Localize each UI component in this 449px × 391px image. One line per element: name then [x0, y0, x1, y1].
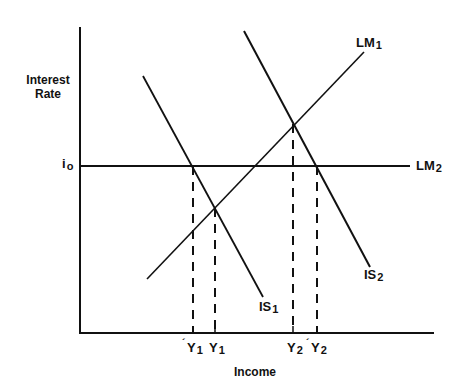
label-lm2: LM2 [416, 159, 442, 172]
x-tick-y2-accent: ´ Y2 [311, 341, 327, 354]
y-axis-title-line2: Rate [22, 87, 74, 101]
x-axis-title: Income [225, 365, 285, 379]
x-tick-y2: Y2 [287, 341, 303, 354]
label-is1: IS1 [259, 300, 278, 313]
is-lm-diagram: Interest Rate io LM1 LM2 IS1 IS2 ´ Y1 Y1… [0, 0, 449, 391]
accent-mark: ´ [306, 338, 309, 348]
label-is2: IS2 [364, 268, 383, 281]
y-axis-title-line1: Interest [22, 73, 74, 87]
y-tick-i0: io [62, 157, 73, 170]
accent-mark: ´ [182, 338, 185, 348]
diagram-canvas [0, 0, 449, 391]
x-tick-y1-accent: ´ Y1 [187, 341, 203, 354]
x-tick-y1: Y1 [209, 341, 225, 354]
label-lm1: LM1 [356, 36, 382, 49]
y-axis-title: Interest Rate [22, 73, 74, 101]
